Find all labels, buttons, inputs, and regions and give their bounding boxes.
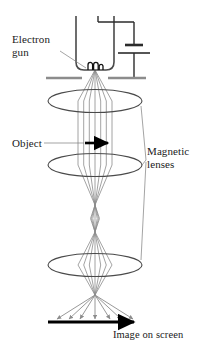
label-object: Object xyxy=(12,137,42,150)
screen-ray-fan xyxy=(57,295,133,319)
label-magnetic-lenses: Magnetic lenses xyxy=(147,145,189,170)
leader-lens-3 xyxy=(141,162,146,260)
figure-canvas: Electron gun Object Magnetic lenses Imag… xyxy=(0,0,203,349)
electron-ray-bundle xyxy=(78,70,112,295)
label-electron-gun: Electron gun xyxy=(12,33,50,58)
leader-lens-1 xyxy=(141,106,146,160)
label-image-on-screen: Image on screen xyxy=(113,329,183,342)
filament-coil xyxy=(88,62,103,70)
leader-lens-2 xyxy=(142,160,146,165)
leader-electron-gun xyxy=(60,51,86,68)
